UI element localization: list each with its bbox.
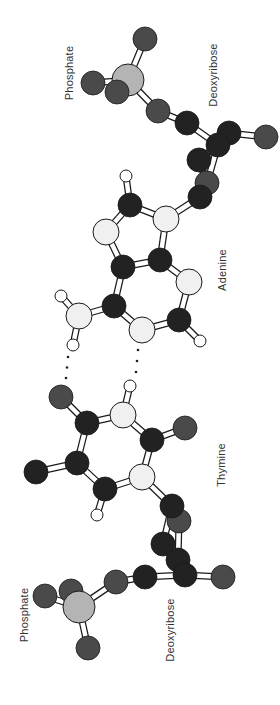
nitrogen-atom <box>153 206 179 232</box>
nitrogen-atom <box>129 317 155 343</box>
hydrogen-bond-dot <box>67 356 70 359</box>
oxygen-atom <box>133 27 157 51</box>
carbon-atom <box>75 411 99 435</box>
label-phosphate-top: Phosphate <box>63 46 75 100</box>
oxygen-atom <box>49 385 73 409</box>
nitrogen-atom <box>110 402 136 428</box>
label-deoxyribose-bottom: Deoxyribose <box>164 598 176 661</box>
label-thymine: Thymine <box>215 443 227 487</box>
hydrogen-bonds <box>65 349 140 380</box>
carbon-atom <box>102 294 126 318</box>
carbon-atom <box>111 255 135 279</box>
carbon-atom <box>160 494 184 518</box>
label-phosphate-bottom: Phosphate <box>18 588 30 642</box>
carbon-atom <box>188 185 212 209</box>
carbon-atom <box>173 563 197 587</box>
carbon-atom <box>175 111 199 135</box>
oxygen-atom <box>211 565 235 589</box>
carbon-atom <box>140 428 164 452</box>
phosphorus-atom <box>63 591 95 623</box>
hydrogen-atom <box>194 335 206 347</box>
carbon-atom <box>187 148 211 172</box>
hydrogen-bond-dot <box>66 366 69 369</box>
oxygen-atom <box>76 636 100 660</box>
oxygen-atom <box>173 416 197 440</box>
thymine-adenine-base-pair-diagram <box>0 0 280 705</box>
nitrogen-atom <box>66 303 92 329</box>
carbon-atom <box>65 451 89 475</box>
oxygen-atom <box>33 584 57 608</box>
atoms <box>24 27 278 660</box>
oxygen-atom <box>81 71 105 95</box>
label-adenine: Adenine <box>216 249 228 291</box>
hydrogen-atom <box>55 290 67 302</box>
carbon-atom <box>133 565 157 589</box>
hydrogen-bond-dot <box>135 371 138 374</box>
hydrogen-bond-dot <box>137 349 140 352</box>
carbon-atom <box>148 248 172 272</box>
carbon-atom <box>118 193 142 217</box>
oxygen-atom <box>254 125 278 149</box>
carbon-atom <box>206 133 230 157</box>
hydrogen-bond-dot <box>136 360 139 363</box>
nitrogen-atom <box>93 219 119 245</box>
hydrogen-atom <box>67 339 79 351</box>
carbon-atom <box>93 477 117 501</box>
nitrogen-atom <box>129 464 155 490</box>
oxygen-atom <box>146 99 170 123</box>
oxygen-atom <box>104 570 128 594</box>
hydrogen-bond-dot <box>65 377 68 380</box>
nitrogen-atom <box>176 269 202 295</box>
hydrogen-atom <box>124 380 136 392</box>
hydrogen-atom <box>91 509 103 521</box>
hydrogen-atom <box>120 170 132 182</box>
carbon-atom <box>167 308 191 332</box>
label-deoxyribose-top: Deoxyribose <box>207 43 219 106</box>
oxygen-atom <box>105 80 129 104</box>
carbon-atom <box>24 460 48 484</box>
